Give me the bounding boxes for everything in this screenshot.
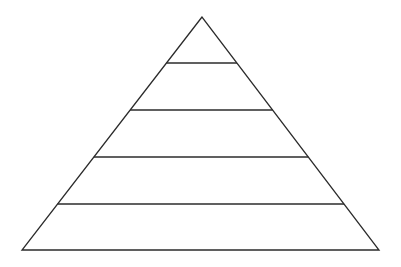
pyramid-diagram bbox=[0, 0, 401, 267]
pyramid-level-dividers bbox=[58, 63, 345, 204]
pyramid-outline bbox=[22, 17, 379, 250]
pyramid-svg bbox=[0, 0, 401, 267]
